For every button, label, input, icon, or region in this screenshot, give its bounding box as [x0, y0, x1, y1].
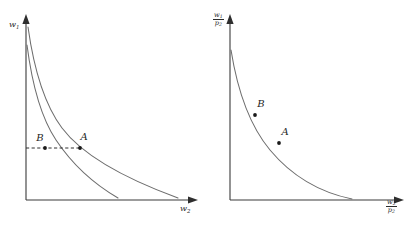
right-point-b-label: B: [256, 98, 264, 109]
right-x-axis-denominator-sub: 2: [392, 209, 395, 214]
right-x-axis-denominator: p2: [386, 207, 397, 214]
left-y-axis-label-main: w: [9, 19, 16, 29]
right-x-axis-numerator-sub: 2: [393, 201, 396, 206]
left-chart-panel: B A: [0, 0, 208, 225]
right-y-axis-denominator: p2: [213, 20, 224, 27]
right-real-wage-curve: [231, 50, 352, 199]
left-point-a-label: A: [79, 131, 87, 142]
left-inner-curve: [27, 45, 118, 198]
left-x-axis-label-sub: 2: [187, 208, 190, 214]
right-point-b-marker: [253, 113, 257, 117]
left-outer-curve: [28, 27, 178, 198]
left-y-axis-label-sub: 1: [16, 24, 19, 30]
figure-root: B A w1 w2 B A w1 p2 w2 p2: [0, 0, 416, 225]
left-x-axis-label-main: w: [180, 203, 187, 213]
right-y-axis-arrowhead: [226, 14, 233, 24]
left-point-b-label: B: [35, 132, 43, 143]
right-point-a-label: A: [280, 126, 288, 137]
right-y-axis-denominator-sub: 2: [219, 22, 222, 27]
left-point-a-marker: [78, 146, 82, 150]
left-point-b-marker: [43, 146, 47, 150]
right-y-axis-label: w1 p2: [213, 12, 224, 26]
right-point-a-marker: [277, 141, 281, 145]
left-x-axis-label: w2: [180, 203, 190, 213]
left-y-axis-label: w1: [9, 19, 19, 29]
right-y-axis-numerator-sub: 1: [220, 14, 223, 19]
right-x-axis-label: w2 p2: [386, 199, 397, 213]
right-chart-panel: B A: [208, 0, 416, 225]
left-y-axis-arrowhead: [22, 14, 29, 24]
